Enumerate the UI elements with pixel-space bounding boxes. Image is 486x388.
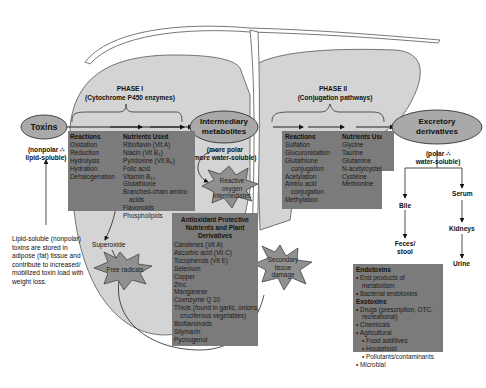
bile-label: Bile: [399, 202, 411, 210]
superoxide-label: Superoxide: [92, 241, 125, 249]
secondary-damage-label: Secondarytissuedamage: [262, 256, 304, 279]
toxin-sources-box: Endotoxins • End products of metabolism …: [353, 264, 443, 352]
phase2-title: PHASE II: [308, 85, 358, 93]
toxins-note: (nonpolar ∴lipid-soluble): [18, 146, 74, 162]
phase2-subtitle: (Conjugation pathways): [290, 94, 380, 102]
excretory-note: (polar ∴water-soluble): [410, 150, 466, 166]
lipid-storage-note: Lipid-soluble (nonpolar) toxins are stor…: [12, 235, 83, 286]
reactive-oxygen-label: Reactiveoxygenintermediates: [212, 177, 252, 200]
phase1-title: PHASE I: [110, 85, 150, 93]
liver-detox-diagram: PHASE I (Cytochrome P450 enzymes) PHASE …: [0, 0, 486, 388]
free-radicals-label: Free radicals: [100, 266, 150, 274]
phase2-box: Reactions Sulfation Glucuronidation Glut…: [282, 131, 382, 209]
phase2-box-tail: [382, 131, 394, 171]
toxins-label: Toxins: [22, 122, 66, 132]
serum-label: Serum: [452, 190, 473, 198]
feces-label: Feces/stool: [390, 240, 420, 256]
phase1-subtitle: (Cytochrome P450 enzymes): [80, 94, 180, 102]
phase1-box: Reactions Oxidation Reduction Hydrolysis…: [68, 131, 195, 211]
urine-label: Urine: [453, 260, 470, 268]
excretory-label: Excretoryderivatives: [395, 117, 479, 137]
antioxidant-box: Antioxidant Protective Nutrients and Pla…: [172, 213, 258, 346]
kidneys-label: Kidneys: [449, 225, 475, 233]
intermediary-note: (more polarmore water-soluble): [192, 146, 258, 162]
intermediary-label: Intermediarymetabolites: [190, 117, 258, 137]
